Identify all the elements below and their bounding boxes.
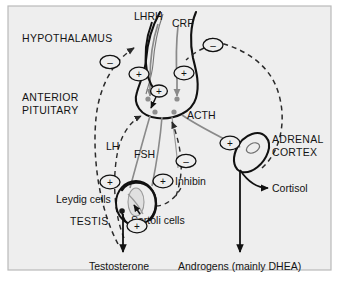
label-lh: LH [106, 140, 119, 152]
label-fsh: FSH [134, 148, 155, 160]
label-lhrh: LHRH [134, 10, 163, 22]
label-leydig-cells: Leydig cells [56, 193, 111, 205]
label-acth: ACTH [187, 109, 216, 121]
endocrine-axis-diagram: HYPOTHALAMUS ANTERIOR PITUITARY LHRH CRF… [0, 0, 344, 282]
sign-plus-adrenal-acth: + [220, 136, 240, 150]
sign-minus-crf-feedback: – [203, 38, 223, 51]
label-crf: CRF [172, 17, 194, 29]
sign-minus-hypothalamus-left: – [100, 55, 120, 68]
sign-plus-pituitary-center: + [151, 85, 168, 97]
sign-plus-testosterone-sertoli-text: + [134, 221, 140, 232]
label-anterior-pituitary-line2: PITUITARY [22, 104, 79, 116]
sign-plus-lh-leydig-text: + [107, 177, 113, 188]
sign-minus-inhibin-feedback: – [176, 154, 196, 167]
sign-plus-hypothalamus-left: + [129, 67, 149, 81]
figure-root: HYPOTHALAMUS ANTERIOR PITUITARY LHRH CRF… [0, 0, 344, 282]
label-androgens: Androgens (mainly DHEA) [178, 260, 301, 272]
sign-plus-lh-leydig: + [100, 175, 120, 189]
sign-plus-adrenal-acth-text: + [227, 138, 233, 149]
label-testis: TESTIS [70, 215, 109, 227]
label-adrenal-cortex-line2: CORTEX [272, 146, 317, 158]
sign-plus-hypothalamus-left-text: + [136, 69, 142, 80]
sign-minus-hypothalamus-left-text: – [107, 57, 113, 68]
sign-plus-hypothalamus-right-text: + [181, 68, 187, 79]
sign-minus-crf-feedback-text: – [210, 40, 216, 51]
sign-plus-fsh-sertoli: + [153, 174, 173, 188]
label-cortisol: Cortisol [272, 182, 308, 194]
sign-plus-pituitary-center-text: + [156, 86, 162, 97]
label-testosterone: Testosterone [89, 260, 149, 272]
label-adrenal-cortex-line1: ADRENAL [272, 133, 324, 145]
label-inhibin: Inhibin [175, 175, 206, 187]
sign-plus-hypothalamus-right: + [174, 66, 194, 80]
label-hypothalamus: HYPOTHALAMUS [22, 32, 113, 44]
sign-plus-testosterone-sertoli: + [127, 219, 147, 233]
sign-plus-fsh-sertoli-text: + [160, 176, 166, 187]
label-anterior-pituitary-line1: ANTERIOR [22, 91, 79, 103]
sign-minus-inhibin-feedback-text: – [183, 156, 189, 167]
